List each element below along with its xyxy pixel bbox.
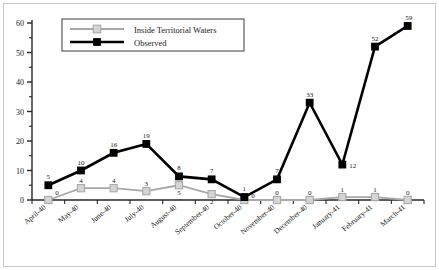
x-tick-label: May-40 [56,202,80,224]
series-marker [371,193,378,200]
y-tick-label: 10 [16,167,24,176]
data-label-inside: 1 [341,186,345,194]
x-tick-label: April-40 [22,202,48,226]
data-label-observed: 7 [210,167,214,175]
x-tick-label: September-40 [173,202,211,236]
data-label-inside: 0 [251,192,255,200]
chart-svg: 0102030405060 51016198717331252590443520… [0,0,439,270]
data-label-observed: 12 [349,162,357,170]
series-marker [176,173,183,180]
chart-legend: Inside Territorial WatersObserved [62,19,244,51]
series-marker [45,182,52,189]
series-marker [45,196,52,203]
y-tick-label: 40 [16,78,24,87]
data-label-inside: 3 [145,180,149,188]
data-label-inside: 1 [373,186,377,194]
series-line [48,26,407,197]
data-label-observed: 1 [243,185,247,193]
series-marker [143,141,150,148]
data-label-inside: 0 [406,189,410,197]
series-marker [372,43,379,50]
series-marker [77,185,84,192]
series-marker [175,182,182,189]
data-label-inside: 4 [112,177,116,185]
x-tick-label: March-41 [379,202,408,228]
x-tick-label: January-41 [310,202,342,230]
data-label-observed: 19 [143,132,151,140]
series-marker [208,191,215,198]
legend-entry-label: Observed [134,38,167,48]
series-marker [110,150,117,157]
series-marker [110,185,117,192]
data-label-observed: 59 [405,14,413,22]
data-label-observed: 8 [177,164,181,172]
series-marker [241,194,248,201]
data-label-observed: 10 [78,159,86,167]
data-label-observed: 52 [372,35,380,43]
series-marker [339,161,346,168]
series-marker [143,188,150,195]
x-tick-label: June-40 [89,202,113,224]
series-marker [273,196,280,203]
series-marker [306,99,313,106]
legend-entry-label: Inside Territorial Waters [134,25,216,35]
y-tick-label: 30 [16,108,24,117]
series-marker [208,176,215,183]
legend-swatch-marker [93,25,101,33]
line-chart: 0102030405060 51016198717331252590443520… [0,0,439,270]
series-marker [274,176,281,183]
series-marker [306,196,313,203]
data-label-inside: 0 [55,189,59,197]
x-tick-label: July-40 [123,202,146,224]
data-label-observed: 33 [306,91,314,99]
x-tick-label: February-41 [340,202,374,233]
data-label-inside: 2 [210,198,214,206]
series-marker [404,196,411,203]
y-axis: 0102030405060 [16,19,32,205]
chart-page: 0102030405060 51016198717331252590443520… [0,0,439,270]
legend-swatch-marker [94,39,101,46]
data-label-inside: 0 [275,189,279,197]
x-tick-labels: April-40May-40June-40July-40August-40Sep… [22,202,407,236]
data-label-observed: 5 [47,173,51,181]
y-tick-label: 50 [16,49,24,58]
x-tick-label: October-40 [212,202,244,231]
data-label-inside: 5 [177,189,181,197]
series-marker [78,167,85,174]
data-label-inside: 0 [308,189,312,197]
series-marker [404,23,411,30]
series-marker [339,193,346,200]
x-tick-label: December-40 [272,202,309,235]
x-axis [32,200,424,204]
x-tick-label: August-40 [148,202,178,229]
y-tick-label: 20 [16,137,24,146]
data-label-observed: 7 [275,167,279,175]
data-label-observed: 16 [110,141,118,149]
y-tick-label: 0 [20,196,24,205]
data-label-inside: 4 [79,177,83,185]
y-tick-label: 60 [16,19,24,28]
x-tick-label: November-40 [239,202,277,236]
